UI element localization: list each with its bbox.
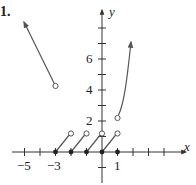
x-tick-label-minus5: −5 bbox=[17, 159, 31, 172]
x-tick-label-minus3: −3 bbox=[47, 159, 61, 172]
x-tick-label-1: 1 bbox=[114, 159, 121, 172]
y-axis-label: y bbox=[109, 5, 115, 18]
open-points-steps bbox=[68, 131, 120, 136]
y-tick-label-6: 6 bbox=[86, 52, 93, 65]
y-tick-label-4: 4 bbox=[86, 83, 93, 96]
open-point-right bbox=[115, 115, 120, 120]
right-curve bbox=[119, 42, 132, 115]
open-point-left bbox=[53, 83, 58, 88]
y-tick-label-2: 2 bbox=[86, 114, 93, 127]
problem-number: 1. bbox=[0, 5, 11, 19]
left-ray bbox=[24, 22, 56, 86]
x-axis-label: x bbox=[184, 140, 190, 153]
